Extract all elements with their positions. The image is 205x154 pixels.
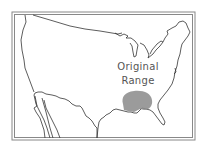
- range-label-line2: Range: [108, 75, 168, 86]
- map-canvas: [0, 0, 205, 154]
- range-map: Original Range: [0, 0, 205, 154]
- range-label-line1: Original: [108, 61, 168, 72]
- original-range-area: [122, 91, 152, 112]
